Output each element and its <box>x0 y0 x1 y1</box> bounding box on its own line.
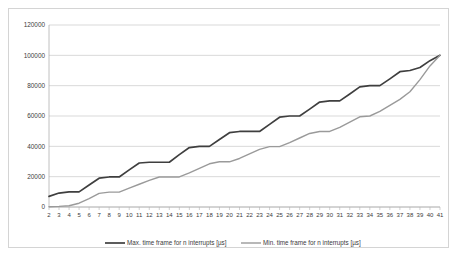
x-axis-tick-label: 19 <box>216 212 223 218</box>
x-axis-tick-label: 24 <box>266 212 273 218</box>
x-axis-tick-label: 35 <box>377 212 384 218</box>
x-axis-tick-label: 13 <box>156 212 163 218</box>
x-axis-tick-label: 36 <box>387 212 394 218</box>
x-axis-tick-label: 8 <box>107 212 111 218</box>
chart-container: 020000400006000080000100000120000 234567… <box>8 8 449 248</box>
line-chart: 020000400006000080000100000120000 234567… <box>9 9 450 247</box>
series-line-max <box>49 55 440 196</box>
x-axis-tick-label: 38 <box>407 212 414 218</box>
x-axis-tick-label: 11 <box>136 212 143 218</box>
x-axis-tick-label: 2 <box>47 212 51 218</box>
legend-label-min: Min. time frame for n interrupts [µs] <box>263 239 361 247</box>
x-axis-tick-label: 18 <box>206 212 213 218</box>
x-axis-tick-label: 33 <box>356 212 363 218</box>
legend-label-max: Max. time frame for n interrupts [µs] <box>127 239 227 247</box>
x-axis-tick-label: 16 <box>186 212 193 218</box>
x-axis-tick-label: 15 <box>176 212 183 218</box>
x-axis-tick-label: 26 <box>286 212 293 218</box>
x-axis-tick-label: 37 <box>397 212 404 218</box>
x-axis-tick-label: 29 <box>316 212 323 218</box>
y-axis-tick-label: 100000 <box>24 52 46 59</box>
x-axis-tick-label: 14 <box>166 212 173 218</box>
x-axis-tick-label: 12 <box>146 212 153 218</box>
x-axis-tick-label: 4 <box>67 212 71 218</box>
x-axis-tick-label: 7 <box>97 212 101 218</box>
x-axis-tick-label: 17 <box>196 212 203 218</box>
gridlines <box>49 25 440 207</box>
x-axis-tick-labels: 2345678910111213141516171819202122232425… <box>47 212 444 218</box>
x-axis-tick-label: 21 <box>236 212 243 218</box>
x-axis-tick-label: 30 <box>326 212 333 218</box>
x-axis-tick-label: 23 <box>256 212 263 218</box>
x-axis-tick-label: 25 <box>276 212 283 218</box>
x-axis-tick-label: 32 <box>346 212 353 218</box>
legend: Max. time frame for n interrupts [µs] Mi… <box>105 239 361 247</box>
x-axis-tick-label: 27 <box>296 212 303 218</box>
x-axis-tick-label: 9 <box>118 212 122 218</box>
x-axis-tick-label: 20 <box>226 212 233 218</box>
x-axis-tick-label: 3 <box>57 212 61 218</box>
x-axis-tick-label: 34 <box>366 212 373 218</box>
y-axis-tick-label: 20000 <box>27 173 45 180</box>
x-axis-tick-label: 41 <box>437 212 444 218</box>
x-axis-tick-label: 40 <box>427 212 434 218</box>
x-axis-tick-label: 39 <box>417 212 424 218</box>
x-axis-tick-label: 10 <box>126 212 133 218</box>
y-axis-tick-label: 40000 <box>27 143 45 150</box>
x-axis-tick-label: 31 <box>336 212 343 218</box>
x-axis-tick-label: 6 <box>87 212 91 218</box>
x-axis-tick-label: 5 <box>77 212 81 218</box>
y-axis-tick-labels: 020000400006000080000100000120000 <box>24 21 46 210</box>
y-axis-tick-label: 80000 <box>27 82 45 89</box>
x-axis-tick-label: 22 <box>246 212 253 218</box>
y-axis-tick-label: 60000 <box>27 112 45 119</box>
y-axis-tick-label: 0 <box>41 203 45 210</box>
y-axis-tick-label: 120000 <box>24 21 46 28</box>
x-axis-tick-label: 28 <box>306 212 313 218</box>
x-axis-tickmarks <box>49 207 440 210</box>
